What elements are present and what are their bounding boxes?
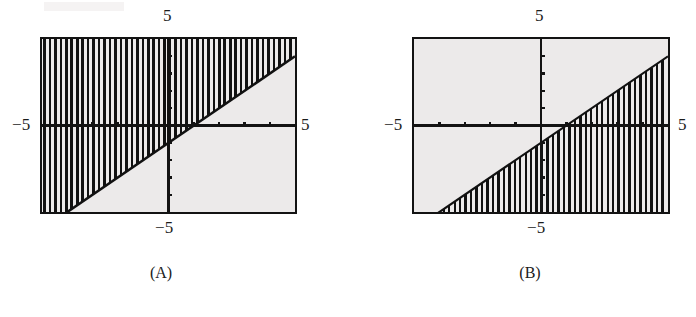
panel-a: 5 −5 5 −5 (A) xyxy=(0,0,348,317)
axis-label-bottom-b: −5 xyxy=(527,219,546,236)
plot-area-b xyxy=(414,39,668,212)
plot-frame-b xyxy=(412,37,670,214)
axis-label-right-a: 5 xyxy=(301,116,310,133)
panel-b: 5 −5 5 −5 (B) xyxy=(348,0,696,317)
axis-label-left-b: −5 xyxy=(384,116,403,133)
axis-label-top-b: 5 xyxy=(535,7,544,24)
figure-root: 5 −5 5 −5 (A) 5 −5 5 −5 (B) xyxy=(0,0,696,317)
panel-caption-b: (B) xyxy=(356,264,696,282)
axis-label-left-a: −5 xyxy=(12,116,31,133)
plot-frame-a xyxy=(40,37,297,214)
axis-label-top-a: 5 xyxy=(163,7,172,24)
axis-label-bottom-a: −5 xyxy=(155,219,174,236)
plot-svg-a xyxy=(42,39,295,212)
axis-label-right-b: 5 xyxy=(678,116,687,133)
plot-svg-b xyxy=(414,39,668,212)
panel-caption-a: (A) xyxy=(0,264,335,282)
plot-area-a xyxy=(42,39,295,212)
